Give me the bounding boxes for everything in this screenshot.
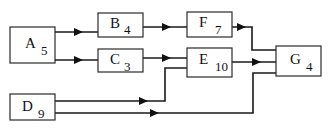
edge-f-to-g bbox=[232, 27, 276, 50]
node-duration: 10 bbox=[215, 59, 228, 74]
node-duration: 5 bbox=[41, 43, 48, 58]
node-duration: 9 bbox=[38, 106, 45, 121]
arrowhead-icon bbox=[150, 109, 159, 117]
node-label: B bbox=[110, 15, 120, 31]
node-e: E10 bbox=[187, 48, 232, 77]
arrowhead-icon bbox=[252, 58, 261, 66]
arrowhead-icon bbox=[162, 23, 171, 31]
arrowhead-icon bbox=[162, 54, 171, 62]
node-label: G bbox=[290, 51, 301, 67]
node-label: A bbox=[25, 35, 36, 51]
node-box bbox=[98, 49, 143, 72]
node-duration: 3 bbox=[124, 59, 131, 74]
node-c: C3 bbox=[98, 49, 143, 74]
edge-d-to-e bbox=[55, 68, 187, 101]
node-g: G4 bbox=[276, 46, 321, 76]
node-box bbox=[98, 13, 143, 37]
arrowhead-icon bbox=[139, 97, 148, 105]
node-f: F7 bbox=[187, 12, 232, 37]
activity-network-diagram: A5B4C3D9E10F7G4 bbox=[0, 0, 330, 129]
node-duration: 7 bbox=[215, 22, 222, 37]
node-d: D9 bbox=[10, 94, 55, 121]
arrowhead-icon bbox=[74, 56, 83, 64]
node-label: F bbox=[199, 14, 207, 30]
node-b: B4 bbox=[98, 13, 143, 37]
node-label: D bbox=[22, 98, 33, 114]
node-label: E bbox=[199, 51, 208, 67]
arrowhead-icon bbox=[74, 28, 83, 36]
node-duration: 4 bbox=[306, 59, 313, 74]
node-a: A5 bbox=[10, 27, 55, 63]
node-duration: 4 bbox=[124, 22, 131, 37]
node-box bbox=[187, 12, 232, 37]
node-label: C bbox=[110, 51, 120, 67]
arrowhead-icon bbox=[237, 23, 246, 31]
